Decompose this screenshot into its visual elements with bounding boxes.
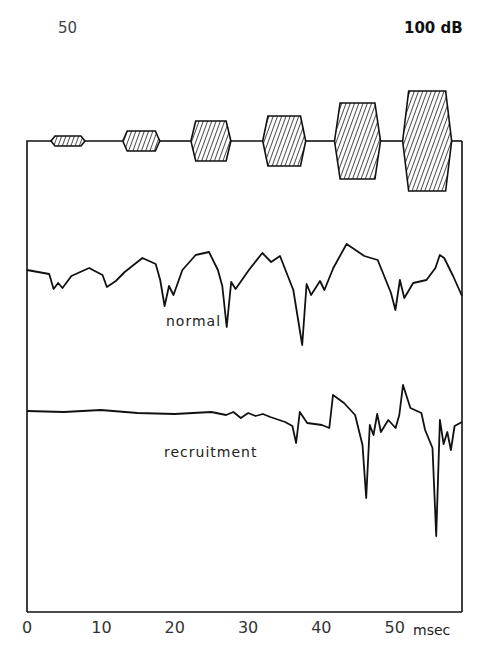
stimulus-bursts [51,91,462,191]
x-tick-label: 30 [238,618,258,637]
x-tick-label: 50 [385,618,405,637]
end-level-label: 100 dB [404,19,463,37]
start-level-label: 50 [58,19,77,37]
x-tick-label: 40 [311,618,331,637]
tone-burst [191,121,231,161]
x-tick-label: 10 [91,618,111,637]
chart-canvas [0,0,485,648]
frame [27,141,462,612]
tone-burst [123,131,160,151]
normal-trace-label: normal [166,313,221,329]
x-tick-label: 20 [165,618,185,637]
tone-burst [335,103,381,179]
tone-burst [403,91,452,191]
recruitment-trace-label: recruitment [164,444,257,460]
x-tick-label: 0 [22,618,32,637]
recruitment-trace [27,385,462,536]
normal-trace [27,244,462,345]
x-axis-unit: msec [413,622,450,638]
tone-burst [263,116,306,166]
tone-burst [51,136,85,146]
